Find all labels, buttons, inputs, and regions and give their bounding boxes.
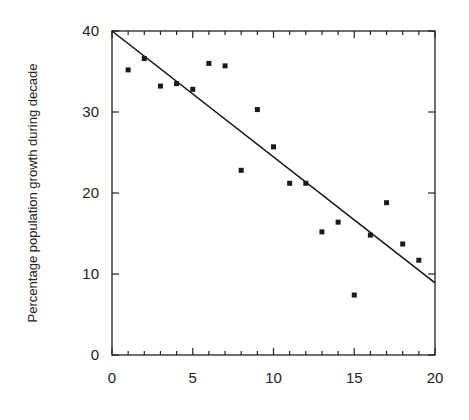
data-points — [126, 56, 422, 298]
x-tick-label: 15 — [346, 369, 363, 386]
plot-frame — [112, 31, 435, 355]
data-point — [303, 181, 308, 186]
data-point — [142, 56, 147, 61]
x-tick-label: 0 — [108, 369, 116, 386]
data-point — [319, 229, 324, 234]
x-tick-label: 10 — [265, 369, 282, 386]
y-axis-label: Percentage population growth during deca… — [25, 64, 40, 323]
data-point — [239, 168, 244, 173]
data-point — [336, 220, 341, 225]
data-point — [352, 293, 357, 298]
data-point — [400, 242, 405, 247]
data-point — [368, 233, 373, 238]
scatter-chart: 05101520 010203040 Percentage population… — [0, 0, 469, 420]
data-point — [158, 84, 163, 89]
plot-border — [112, 31, 435, 355]
data-point — [206, 61, 211, 66]
data-point — [223, 63, 228, 68]
x-tick-label: 20 — [427, 369, 444, 386]
regression-line — [112, 31, 435, 283]
data-point — [287, 181, 292, 186]
y-tick-label: 30 — [82, 103, 99, 120]
data-point — [384, 200, 389, 205]
x-tick-label: 5 — [189, 369, 197, 386]
data-point — [126, 67, 131, 72]
axis-ticks — [112, 31, 435, 355]
data-point — [174, 81, 179, 86]
y-tick-label: 20 — [82, 184, 99, 201]
y-tick-label: 40 — [82, 22, 99, 39]
y-tick-label: 0 — [91, 346, 99, 363]
y-tick-labels: 010203040 — [82, 22, 99, 363]
x-tick-labels: 05101520 — [108, 369, 444, 386]
data-point — [271, 144, 276, 149]
y-tick-label: 10 — [82, 265, 99, 282]
data-point — [190, 87, 195, 92]
data-point — [416, 258, 421, 263]
data-point — [255, 107, 260, 112]
